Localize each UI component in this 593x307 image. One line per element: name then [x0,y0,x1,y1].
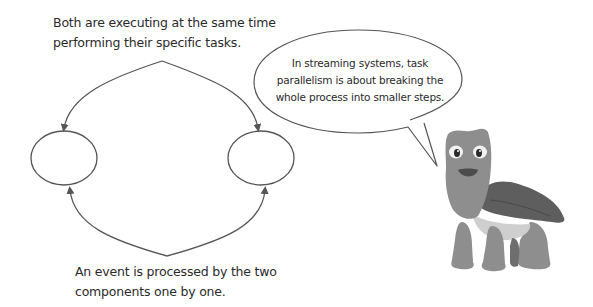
bottom-caption-line-2: components one by one. [75,282,277,302]
turtle-icon [446,129,565,271]
bottom-arc-to-left [70,190,167,256]
top-arc-to-right [162,61,258,128]
right-component-circle [228,131,294,185]
left-component-circle [31,131,97,185]
diagram-canvas: Both are executing at the same time perf… [0,0,593,307]
top-caption-line-1: Both are executing at the same time [53,13,276,33]
bottom-caption: An event is processed by the two compone… [75,262,277,302]
bottom-arc-to-right [167,190,265,256]
top-caption: Both are executing at the same time perf… [53,13,276,53]
top-arc-to-left [64,61,162,128]
speech-bubble-line-3: whole process into smaller steps. [275,89,445,106]
speech-bubble-text: In streaming systems, task parallelism i… [275,55,445,106]
speech-bubble-line-1: In streaming systems, task [275,55,445,72]
speech-bubble-line-2: parallelism is about breaking the [275,72,445,89]
top-caption-line-2: performing their specific tasks. [53,33,276,53]
bottom-caption-line-1: An event is processed by the two [75,262,277,282]
